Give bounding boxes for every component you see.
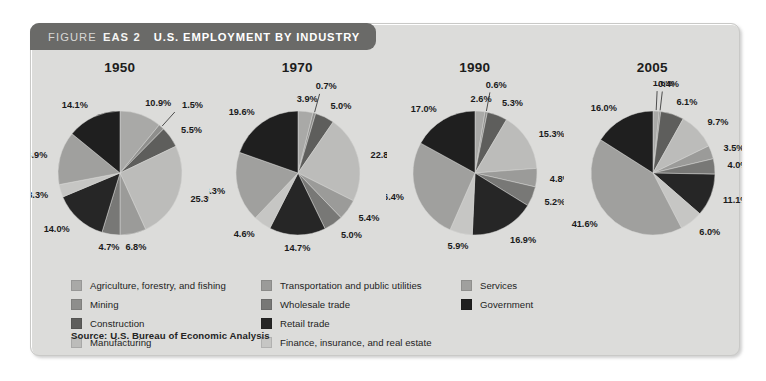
pie-slice-label: 16.0%: [590, 103, 616, 113]
figure-header: FIGURE EAS 2 U.S. EMPLOYMENT BY INDUSTRY: [30, 23, 376, 50]
legend-item: Agriculture, forestry, and fishing: [71, 276, 261, 295]
pie-wrapper: 10.9%1.5%5.5%25.3%6.8%4.7%14.0%3.3%13.9%…: [31, 81, 209, 267]
legend-item: Retail trade: [261, 314, 461, 333]
legend-label: Mining: [90, 299, 119, 310]
pie-slice-label: 25.3%: [191, 194, 210, 204]
pie-slice-label: 17.0%: [411, 104, 437, 114]
pie-slice-label: 14.7%: [284, 243, 310, 253]
source-note: Source: U.S. Bureau of Economic Analysis: [71, 330, 270, 341]
chart-cell-1950: 195010.9%1.5%5.5%25.3%6.8%4.7%14.0%3.3%1…: [31, 57, 209, 269]
legend-label: Government: [480, 299, 533, 310]
pie-chart-1990: 2.6%0.6%5.3%15.3%4.8%5.2%16.9%5.9%26.4%1…: [386, 81, 564, 267]
pie-wrapper: 1.6%0.4%6.1%9.7%3.5%4.0%11.1%6.0%41.6%16…: [564, 81, 742, 267]
figure-panel: FIGURE EAS 2 U.S. EMPLOYMENT BY INDUSTRY…: [30, 23, 740, 356]
legend-label: Wholesale trade: [280, 299, 350, 310]
pie-slice-label: 5.3%: [502, 98, 523, 108]
legend-item: Mining: [71, 295, 261, 314]
pie-slice-label: 5.9%: [448, 241, 469, 251]
legend-item: Government: [461, 295, 621, 314]
legend-swatch: [261, 318, 272, 329]
pie-slice-label: 41.6%: [571, 219, 597, 229]
chart-year-title: 2005: [564, 60, 742, 75]
figure-header-title: U.S. EMPLOYMENT BY INDUSTRY: [154, 31, 360, 43]
legend-item: Wholesale trade: [261, 295, 461, 314]
pie-slice-label: 10.9%: [145, 98, 171, 108]
legend-label: Services: [480, 280, 517, 291]
pie-slice-label: 6.8%: [125, 242, 146, 252]
pie-slice-label: 15.3%: [539, 129, 564, 139]
chart-year-title: 1950: [31, 60, 209, 75]
pie-chart-1950: 10.9%1.5%5.5%25.3%6.8%4.7%14.0%3.3%13.9%…: [31, 81, 209, 267]
chart-cell-2005: 20051.6%0.4%6.1%9.7%3.5%4.0%11.1%6.0%41.…: [564, 57, 742, 269]
legend-swatch: [71, 299, 82, 310]
pie-slice-label: 0.7%: [315, 81, 336, 91]
figure-header-label: FIGURE: [48, 31, 97, 43]
legend-label: Finance, insurance, and real estate: [280, 337, 432, 348]
label-leader-line: [660, 92, 662, 111]
pie-slice-label: 4.6%: [233, 229, 254, 239]
pie-slice-label: 5.4%: [358, 213, 379, 223]
chart-year-title: 1970: [209, 60, 387, 75]
figure-header-number: EAS 2: [103, 31, 141, 43]
legend-item: Services: [461, 276, 621, 295]
pie-slice-label: 4.0%: [727, 160, 741, 170]
legend-label: Transportation and public utilities: [280, 280, 422, 291]
pie-slice-label: 14.1%: [62, 100, 88, 110]
pie-slice-label: 0.4%: [658, 81, 679, 89]
legend-swatch: [261, 299, 272, 310]
pie-chart-1970: 3.9%0.7%5.0%22.8%5.4%5.0%14.7%4.6%18.3%1…: [209, 81, 387, 267]
pie-slice-label: 6.0%: [699, 227, 720, 237]
label-leader-line: [162, 112, 175, 126]
legend-item: Transportation and public utilities: [261, 276, 461, 295]
legend-column-3: ServicesGovernment: [461, 276, 621, 352]
pie-slice-label: 3.3%: [31, 190, 48, 200]
pie-slice-label: 18.3%: [209, 186, 225, 196]
chart-year-title: 1990: [386, 60, 564, 75]
pie-wrapper: 3.9%0.7%5.0%22.8%5.4%5.0%14.7%4.6%18.3%1…: [209, 81, 387, 267]
pie-chart-2005: 1.6%0.4%6.1%9.7%3.5%4.0%11.1%6.0%41.6%16…: [564, 81, 742, 267]
legend-column-2: Transportation and public utilitiesWhole…: [261, 276, 461, 352]
pie-slice-label: 0.6%: [486, 81, 507, 90]
legend-label: Retail trade: [280, 318, 330, 329]
pie-slice-label: 6.1%: [676, 97, 697, 107]
chart-cell-1990: 19902.6%0.6%5.3%15.3%4.8%5.2%16.9%5.9%26…: [386, 57, 564, 269]
pie-slice-label: 3.5%: [723, 143, 741, 153]
charts-row: 195010.9%1.5%5.5%25.3%6.8%4.7%14.0%3.3%1…: [31, 57, 741, 269]
label-leader-line: [656, 91, 657, 110]
legend-label: Agriculture, forestry, and fishing: [90, 280, 226, 291]
legend-swatch: [461, 299, 472, 310]
pie-slice-label: 13.9%: [31, 150, 47, 160]
pie-slice-label: 5.0%: [340, 230, 361, 240]
legend-swatch: [461, 280, 472, 291]
legend-label: Construction: [90, 318, 144, 329]
pie-slice-label: 9.7%: [707, 117, 728, 127]
pie-wrapper: 2.6%0.6%5.3%15.3%4.8%5.2%16.9%5.9%26.4%1…: [386, 81, 564, 267]
pie-slice-label: 22.8%: [370, 150, 386, 160]
pie-slice-label: 5.5%: [181, 125, 202, 135]
chart-cell-1970: 19703.9%0.7%5.0%22.8%5.4%5.0%14.7%4.6%18…: [209, 57, 387, 269]
pie-slice-label: 4.7%: [99, 242, 120, 252]
legend-item: Finance, insurance, and real estate: [261, 333, 461, 352]
legend-swatch: [261, 280, 272, 291]
pie-slice-label: 1.5%: [182, 100, 203, 110]
pie-slice-label: 19.6%: [228, 107, 254, 117]
pie-slice-label: 14.0%: [44, 224, 70, 234]
legend-swatch: [71, 318, 82, 329]
pie-slice-label: 26.4%: [386, 192, 404, 202]
pie-slice-label: 5.2%: [544, 197, 564, 207]
pie-slice-label: 4.8%: [550, 174, 564, 184]
pie-slice-label: 3.9%: [296, 94, 317, 104]
legend-swatch: [71, 280, 82, 291]
pie-slice-label: 11.1%: [723, 195, 742, 205]
pie-slice-label: 5.0%: [330, 101, 351, 111]
pie-slice-label: 16.9%: [510, 235, 536, 245]
